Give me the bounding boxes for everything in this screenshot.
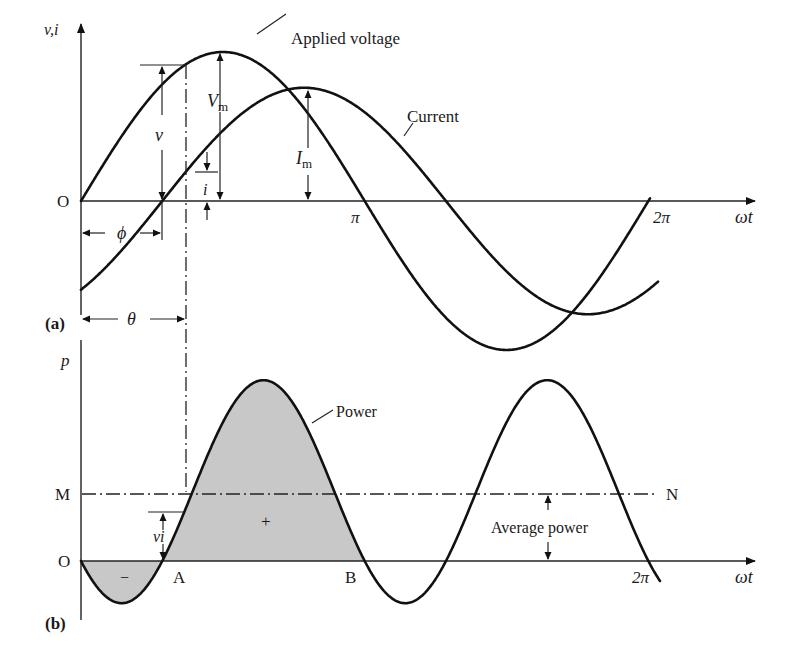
negative-area-sign: −	[120, 569, 129, 586]
ac-power-diagram: v,i O π 2π ωt Applied voltage Current v …	[0, 0, 793, 664]
vi-label: vi	[153, 528, 165, 545]
current-label: Current	[407, 107, 459, 126]
point-b-label: B	[345, 568, 356, 587]
origin-label-a: O	[57, 192, 69, 211]
v-label: v	[155, 125, 163, 145]
x-axis-label-wt-a: ωt	[735, 207, 754, 227]
tick-2pi-a: 2π	[653, 208, 671, 227]
power-leader-line	[312, 410, 333, 423]
applied-voltage-label: Applied voltage	[291, 29, 400, 48]
phi-label: ϕ	[117, 223, 126, 243]
point-a-label: A	[173, 568, 186, 587]
n-label: N	[666, 485, 678, 504]
m-label: M	[55, 485, 70, 504]
x-axis-label-wt-b: ωt	[735, 567, 754, 587]
y-axis-label-p: p	[60, 351, 70, 370]
average-power-label: Average power	[491, 519, 589, 537]
panel-a: v,i O π 2π ωt Applied voltage Current v …	[44, 14, 755, 350]
im-label: Im	[295, 148, 312, 171]
i-label: i	[203, 181, 207, 198]
panel-b: p M N O A B 2π ωt Power Average power vi…	[45, 340, 755, 633]
tick-2pi-b: 2π	[632, 568, 650, 587]
voltage-leader-line	[257, 14, 286, 34]
vm-label: Vm	[207, 91, 228, 114]
positive-area-sign: +	[261, 512, 271, 531]
y-axis-label-vi: v,i	[44, 21, 58, 38]
power-label: Power	[336, 403, 378, 420]
panel-b-label: (b)	[45, 614, 66, 633]
origin-label-b: O	[58, 552, 70, 571]
panel-a-label: (a)	[45, 314, 65, 333]
theta-label: θ	[127, 309, 136, 329]
tick-pi: π	[351, 208, 360, 227]
